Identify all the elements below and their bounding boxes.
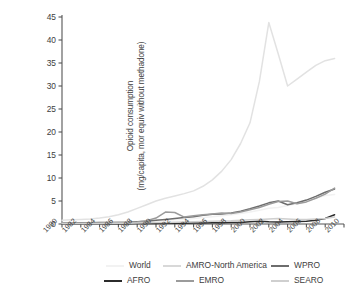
legend-item-searo[interactable]: SEARO	[271, 273, 323, 288]
y-axis-tick-label: 15	[47, 150, 57, 160]
y-axis-tick-label: 35	[47, 58, 57, 68]
legend-item-world[interactable]: World	[106, 258, 151, 273]
y-axis-tick-label: 20	[47, 127, 57, 137]
series-lines	[62, 23, 335, 224]
legend-label: AMRO-North America	[186, 261, 267, 269]
x-axis-tick-labels: 1980198219841986198819901992199419961998…	[46, 224, 346, 258]
legend: WorldAMRO-North AmericaWPRO AFROEMROSEAR…	[0, 258, 351, 298]
y-axis: 051015202530354045	[47, 12, 62, 229]
legend-label: SEARO	[294, 276, 323, 284]
y-axis-tick-label: 5	[51, 196, 56, 206]
legend-swatch-icon	[106, 265, 124, 267]
legend-item-amro-north-america[interactable]: AMRO-North America	[163, 258, 267, 273]
legend-swatch-icon	[104, 280, 122, 282]
plot-svg: 051015202530354045	[46, 8, 346, 232]
series-line-amro-north-america	[62, 23, 335, 221]
legend-label: World	[129, 261, 151, 269]
legend-swatch-icon	[163, 265, 181, 267]
y-axis-tick-label: 30	[47, 81, 57, 91]
y-axis-tick-label: 45	[47, 12, 57, 22]
plot-area: 051015202530354045	[46, 8, 346, 232]
y-axis-tick-label: 10	[47, 173, 57, 183]
y-axis-tick-label: 40	[47, 35, 57, 45]
legend-label: AFRO	[127, 276, 150, 284]
legend-swatch-icon	[176, 280, 194, 282]
legend-item-afro[interactable]: AFRO	[104, 273, 150, 288]
y-axis-tick-label: 25	[47, 104, 57, 114]
legend-item-emro[interactable]: EMRO	[176, 273, 224, 288]
legend-row-1: WorldAMRO-North AmericaWPRO	[0, 258, 351, 273]
legend-row-2: AFROEMROSEARO	[0, 273, 351, 288]
opioid-consumption-chart: Opioid consumption (mg/capita, mor equiv…	[0, 0, 351, 300]
legend-label: EMRO	[199, 276, 224, 284]
legend-swatch-icon	[271, 280, 289, 282]
legend-item-wpro[interactable]: WPRO	[271, 258, 320, 273]
legend-label: WPRO	[294, 261, 320, 269]
y-axis-label: Opioid consumption (mg/capita, mor equiv…	[0, 0, 46, 232]
legend-swatch-icon	[271, 265, 289, 267]
